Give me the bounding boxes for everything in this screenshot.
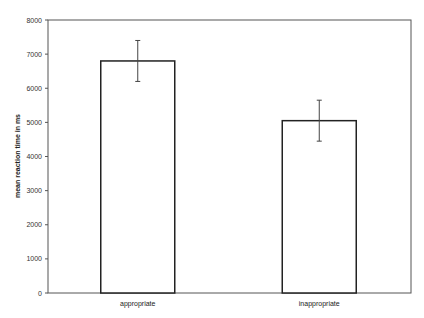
- y-tick-label: 3000: [26, 187, 42, 194]
- y-axis-title: mean reaction time in ms: [14, 114, 21, 198]
- x-axis-labels: appropriateinappropriate: [120, 300, 340, 308]
- bar-inappropriate: [282, 121, 356, 293]
- x-category-label: appropriate: [120, 300, 156, 308]
- bar-chart: 010002000300040005000600070008000 approp…: [0, 0, 424, 318]
- y-tick-label: 1000: [26, 255, 42, 262]
- bar-appropriate: [101, 61, 175, 293]
- bars: [101, 61, 357, 293]
- y-axis-ticks: 010002000300040005000600070008000: [26, 17, 48, 297]
- y-tick-label: 7000: [26, 51, 42, 58]
- x-category-label: inappropriate: [299, 300, 340, 308]
- y-tick-label: 6000: [26, 85, 42, 92]
- y-tick-label: 8000: [26, 17, 42, 24]
- y-tick-label: 2000: [26, 221, 42, 228]
- y-tick-label: 5000: [26, 119, 42, 126]
- y-tick-label: 4000: [26, 153, 42, 160]
- y-tick-label: 0: [38, 290, 42, 297]
